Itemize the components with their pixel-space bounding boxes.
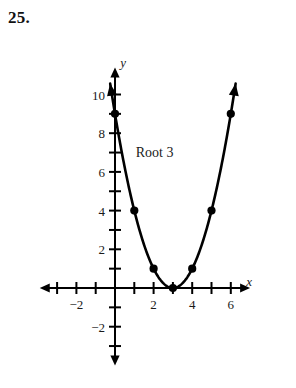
y-axis-tick-label: 4 — [99, 204, 106, 217]
x-axis-tick-label: 4 — [189, 298, 196, 311]
data-point-marker — [227, 110, 235, 118]
axes-layer — [40, 67, 250, 365]
y-axis-arrow-up — [110, 67, 119, 77]
data-point-marker — [188, 265, 196, 273]
y-axis-arrow-down — [110, 355, 119, 365]
x-axis-tick-label: 6 — [228, 298, 235, 311]
x-axis-tick-label: 2 — [150, 298, 157, 311]
data-point-marker — [130, 207, 138, 215]
y-axis-name-label: y — [120, 55, 126, 68]
data-point-marker — [150, 265, 158, 273]
parabola-graph — [0, 0, 296, 388]
markers-layer — [111, 110, 235, 292]
data-point-marker — [169, 284, 177, 292]
y-axis-tick-label: 8 — [99, 127, 106, 140]
x-axis-tick-label: −2 — [69, 298, 83, 311]
data-point-marker — [111, 110, 119, 118]
figure-root: 25. Root 3 x y 108642−2−2246 — [0, 0, 296, 388]
y-axis-tick-label: −2 — [91, 320, 105, 333]
y-axis-tick-label: 2 — [99, 243, 106, 256]
x-axis-name-label: x — [246, 275, 252, 288]
root-annotation-label: Root 3 — [136, 145, 174, 161]
curve-layer — [107, 84, 239, 288]
data-point-marker — [207, 207, 215, 215]
y-axis-tick-label: 6 — [99, 165, 106, 178]
y-axis-tick-label: 10 — [92, 88, 105, 101]
x-axis-arrow-left — [40, 283, 50, 292]
parabola-curve — [110, 84, 235, 288]
curve-arrow-right-branch — [229, 84, 239, 97]
